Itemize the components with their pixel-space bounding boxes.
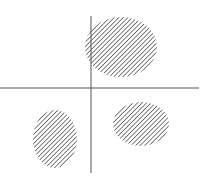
clusters (33, 17, 169, 168)
bottom-left-cluster (33, 110, 77, 168)
cluster-diagram (0, 0, 216, 179)
bottom-right-cluster (113, 102, 169, 146)
top-cluster (85, 17, 157, 77)
